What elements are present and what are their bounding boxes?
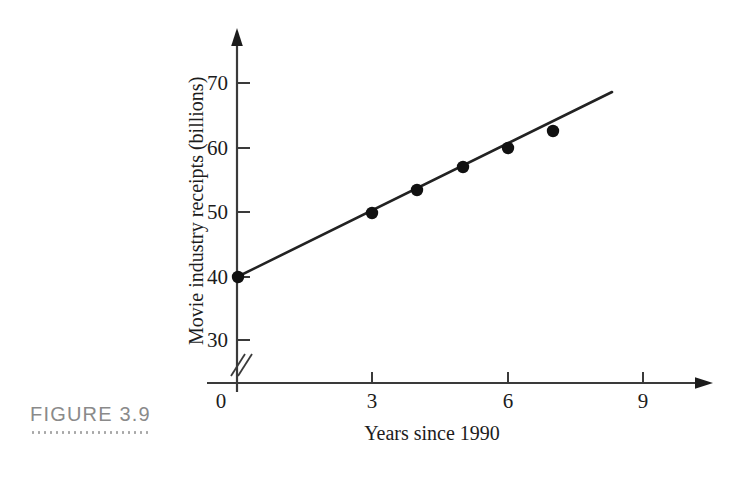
x-tick-label-9: 9 bbox=[638, 389, 649, 413]
y-tick-label-40: 40 bbox=[207, 265, 228, 289]
figure-caption: FIGURE 3.9 bbox=[30, 404, 200, 434]
y-axis-group: 70 60 50 40 30 Movie industry receipts (… bbox=[185, 28, 252, 392]
trend-line bbox=[237, 92, 612, 277]
x-axis-arrowhead bbox=[695, 377, 713, 389]
y-axis-arrowhead bbox=[231, 28, 243, 46]
figure-container: 70 60 50 40 30 Movie industry receipts (… bbox=[0, 0, 745, 482]
x-tick-label-3: 3 bbox=[367, 389, 378, 413]
y-tick-label-60: 60 bbox=[207, 136, 228, 160]
figure-caption-rule bbox=[30, 431, 152, 434]
figure-caption-label: FIGURE 3.9 bbox=[30, 404, 200, 424]
y-axis-break-icon bbox=[231, 354, 252, 376]
data-point[interactable] bbox=[232, 271, 244, 283]
data-point-group bbox=[232, 125, 559, 283]
x-tick-label-6: 6 bbox=[503, 389, 514, 413]
x-axis-title: Years since 1990 bbox=[364, 422, 500, 444]
data-point[interactable] bbox=[366, 207, 378, 219]
x-tick-label-0: 0 bbox=[216, 389, 227, 413]
data-point[interactable] bbox=[457, 161, 469, 173]
y-tick-label-50: 50 bbox=[207, 200, 228, 224]
y-tick-label-30: 30 bbox=[207, 328, 228, 352]
data-point[interactable] bbox=[547, 125, 559, 137]
data-point[interactable] bbox=[502, 142, 514, 154]
y-axis-title: Movie industry receipts (billions) bbox=[185, 77, 208, 345]
x-axis-group: 0 3 6 9 Years since 1990 bbox=[207, 372, 713, 444]
y-tick-label-70: 70 bbox=[207, 71, 228, 95]
data-point[interactable] bbox=[411, 184, 423, 196]
